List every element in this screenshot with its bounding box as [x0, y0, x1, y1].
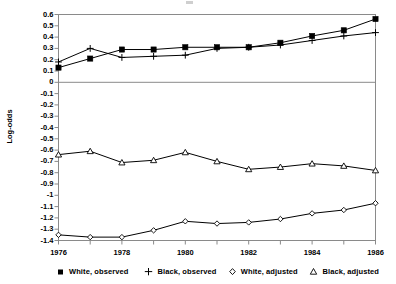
data-point	[88, 56, 93, 61]
y-axis-title: Log-odds	[5, 92, 14, 162]
legend-label-black-adjusted: Black, adjusted	[322, 267, 379, 276]
y-axis-tick-label: 0.6	[28, 10, 54, 19]
data-point	[119, 234, 124, 239]
data-point	[373, 16, 378, 21]
data-point	[183, 219, 188, 224]
plus-icon	[144, 267, 153, 276]
data-point	[151, 47, 156, 52]
data-point	[309, 211, 314, 216]
data-point	[56, 232, 61, 237]
log-odds-line-chart: Log-odds White, observed Black, observed…	[0, 0, 396, 284]
data-point	[341, 207, 346, 212]
open-diamond-icon	[228, 267, 237, 276]
y-axis-tick-label: -0.6	[28, 145, 54, 154]
y-axis-tick-label: -0.4	[28, 123, 54, 132]
y-axis-tick-label: -0.5	[28, 134, 54, 143]
y-axis-tick-label: -0.7	[28, 156, 54, 165]
data-point	[182, 149, 188, 154]
data-point	[246, 220, 251, 225]
series-white-observed	[56, 16, 378, 70]
y-axis-tick-label: -1.4	[28, 236, 54, 245]
series-black-observed	[55, 29, 379, 65]
chart-legend: White, observed Black, observed White, a…	[56, 263, 386, 279]
data-point	[87, 148, 93, 153]
y-axis-tick-label: 0.3	[28, 43, 54, 52]
series-line	[59, 203, 376, 237]
data-point	[150, 53, 157, 60]
data-point	[88, 234, 93, 239]
x-axis-tick-label: 1984	[294, 248, 330, 257]
x-axis-tick-label: 1986	[358, 248, 394, 257]
y-axis-tick-label: 0.5	[28, 21, 54, 30]
series-black-adjusted	[55, 148, 378, 173]
open-triangle-icon	[309, 267, 318, 276]
x-axis-tick-label: 1982	[231, 248, 267, 257]
legend-item-black-adjusted[interactable]: Black, adjusted	[309, 267, 386, 276]
y-axis-tick-label: 0.2	[28, 55, 54, 64]
y-axis-tick-label: 0	[28, 77, 54, 86]
y-axis-tick-label: -0.1	[28, 89, 54, 98]
y-axis-tick-label: -1	[28, 190, 54, 199]
y-axis-tick-label: 0.1	[28, 66, 54, 75]
legend-item-white-observed[interactable]: White, observed	[56, 267, 144, 276]
x-axis-tick-label: 1976	[41, 248, 77, 257]
data-point	[341, 28, 346, 33]
legend-item-white-adjusted[interactable]: White, adjusted	[228, 267, 310, 276]
y-axis-tick-label: -0.3	[28, 111, 54, 120]
data-point	[373, 201, 378, 206]
x-axis-tick-label: 1978	[104, 248, 140, 257]
y-axis-tick-label: -1.1	[28, 202, 54, 211]
data-point	[214, 221, 219, 226]
data-point	[151, 228, 156, 233]
legend-label-black-observed: Black, observed	[157, 267, 216, 276]
y-axis-tick-label: -0.2	[28, 100, 54, 109]
data-point	[182, 52, 189, 59]
legend-label-white-observed: White, observed	[69, 267, 128, 276]
data-point	[119, 54, 126, 61]
y-axis-tick-label: -0.8	[28, 168, 54, 177]
data-point	[372, 29, 379, 36]
x-axis-tick-label: 1980	[167, 248, 203, 257]
data-point	[87, 45, 94, 52]
data-point	[56, 65, 61, 70]
legend-label-white-adjusted: White, adjusted	[241, 267, 298, 276]
y-axis-tick-label: -0.9	[28, 179, 54, 188]
legend-item-black-observed[interactable]: Black, observed	[144, 267, 227, 276]
data-point	[183, 45, 188, 50]
y-axis-tick-label: 0.4	[28, 32, 54, 41]
plot-canvas	[0, 0, 396, 284]
filled-square-icon	[56, 267, 65, 276]
data-point	[340, 33, 347, 40]
data-point	[278, 216, 283, 221]
y-axis-tick-label: -1.3	[28, 224, 54, 233]
series-line	[59, 19, 376, 68]
y-axis-title-wrapper: Log-odds	[0, 96, 14, 166]
series-white-adjusted	[56, 201, 378, 240]
y-axis-tick-label: -1.2	[28, 213, 54, 222]
data-point	[119, 47, 124, 52]
